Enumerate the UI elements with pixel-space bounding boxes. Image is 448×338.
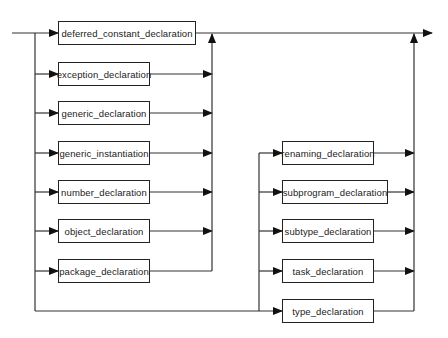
box-task-declaration: task_declaration xyxy=(282,259,374,283)
box-renaming-declaration: renaming_declaration xyxy=(282,141,374,165)
box-subtype-declaration: subtype_declaration xyxy=(282,219,374,243)
box-exception-declaration: exception_declaration xyxy=(58,62,150,86)
box-type-declaration: type_declaration xyxy=(282,299,374,323)
box-subprogram-declaration: subprogram_declaration xyxy=(282,180,388,204)
box-deferred-constant-declaration: deferred_constant_declaration xyxy=(58,21,196,45)
box-object-declaration: object_declaration xyxy=(58,219,150,243)
railroad-diagram xyxy=(0,0,448,338)
box-number-declaration: number_declaration xyxy=(58,180,150,204)
box-generic-declaration: generic_declaration xyxy=(58,101,150,125)
box-package-declaration: package_declaration xyxy=(58,259,150,283)
box-generic-instantiation: generic_instantiation xyxy=(58,141,150,165)
